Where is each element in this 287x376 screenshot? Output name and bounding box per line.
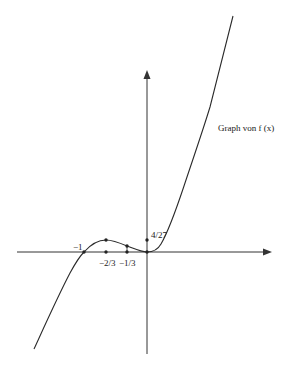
- curve-label: Graph von f (x): [218, 123, 274, 133]
- y-axis-arrow-icon: [144, 70, 151, 79]
- origin-point: [145, 250, 148, 253]
- tick-label-minus-one: −1: [73, 242, 83, 252]
- tick-label-four-27: 4/27: [151, 230, 168, 240]
- tick-minus-two-thirds-point: [104, 250, 107, 253]
- root-point: [82, 250, 85, 253]
- tick-label-minus-one-third: −1/3: [119, 258, 136, 268]
- y-tick-four-27-point: [145, 238, 148, 241]
- x-axis-arrow-icon: [263, 249, 272, 256]
- function-graph: −1 −2/3 −1/3 4/27 Graph von f (x): [0, 0, 287, 376]
- local-max-point: [104, 238, 107, 241]
- function-curve: [34, 16, 233, 349]
- tick-minus-one-third-point: [125, 250, 128, 253]
- inflection-point: [125, 244, 128, 247]
- tick-label-minus-two-thirds: −2/3: [99, 258, 116, 268]
